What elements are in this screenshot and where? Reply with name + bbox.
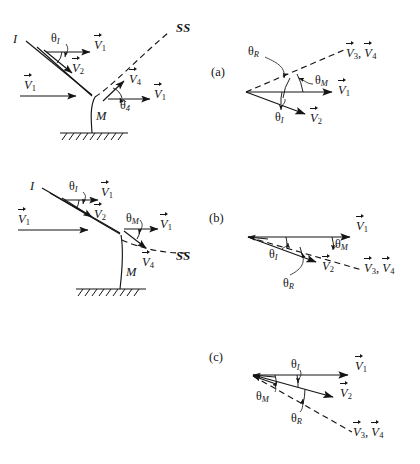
v1-right-label-a: V1 (154, 88, 166, 102)
jet-label-b: I (30, 180, 34, 193)
b-theta-i-leader (83, 192, 85, 204)
v2-label-c-vec: V2 (340, 387, 352, 401)
theta-m-label-b-sketch: θM (126, 212, 139, 226)
theta-r-label-a-vec: θR (248, 45, 259, 59)
a-v3v4-dashed (246, 50, 344, 92)
c-theta-r-arc (303, 389, 305, 404)
b-surface-curve (120, 235, 123, 289)
a-theta-r-leader (265, 57, 284, 78)
b-theta-m-arc (137, 229, 140, 239)
a-theta-r-arc (283, 78, 290, 98)
panel-tag-c: (c) (209, 351, 223, 364)
b-ground-hatching (78, 289, 139, 296)
v3-v4-label-b-vec: V3, V4 (364, 262, 394, 276)
jet-label-a: I (13, 33, 17, 46)
a-theta-i-arc (281, 92, 282, 104)
theta-m-label-c-vec: θM (256, 390, 269, 404)
v2-label-b-vec: V2 (322, 260, 334, 274)
v1-label-a-vec: V1 (338, 84, 350, 98)
ground-hatching (62, 133, 123, 140)
v1-freestream-label-a: V1 (24, 79, 36, 93)
b-theta-m-arc (332, 237, 334, 249)
b-v2-vector (248, 237, 316, 262)
v3-v4-label-c-vec: V3, V4 (353, 426, 383, 440)
theta-i-label-a-vec: θI (275, 111, 284, 125)
c-theta-i-arc (297, 375, 298, 387)
v2-label-a-vec: V2 (310, 112, 322, 126)
a-theta-m-arc (297, 74, 303, 92)
surface-curve-lower (91, 97, 95, 133)
v4-label-a: V4 (129, 73, 141, 87)
theta-4-label-a-sketch: θ4 (120, 99, 130, 113)
v1-top-label-b: V1 (101, 186, 113, 200)
theta-r-label-b-vec: θR (283, 277, 294, 291)
theta-i-label-b-sketch: θI (69, 180, 78, 194)
streamline-label-a: SS (176, 22, 191, 35)
panel-a-vector-diagram (246, 50, 344, 114)
panel-tag-a: (a) (211, 66, 225, 79)
surface-label-a: M (96, 110, 106, 123)
v1-label-c-vec: V1 (355, 360, 367, 374)
c-theta-r-leader (300, 399, 303, 412)
v2-top-label-b: V2 (94, 208, 106, 222)
v1-label-b-vec: V1 (356, 220, 368, 234)
panel-tag-b: (b) (209, 212, 224, 225)
streamline-label-b: SS (176, 250, 191, 263)
v1-freestream-label-b: V1 (18, 213, 30, 227)
theta-i-label-c-vec: θI (291, 358, 300, 372)
v3-v4-label-a-vec: V3, V4 (346, 47, 376, 61)
theta-m-label-b-vec: θM (335, 238, 348, 252)
theta-r-label-c-vec: θR (291, 412, 302, 426)
theta-i-label-a-sketch: θI (51, 32, 60, 46)
theta-i-leader (65, 44, 68, 57)
panel-b-sketch (18, 188, 190, 296)
figure-canvas: (a) I M SS θI θ4 V1 V2 V1 V4 V1 θR θM θI… (0, 0, 420, 464)
b-theta-r-arc (300, 247, 302, 255)
v1-top-label-a: V1 (94, 39, 106, 53)
theta-m-label-a-vec: θM (315, 74, 328, 88)
theta-i-label-b-vec: θI (269, 248, 278, 262)
a-theta-i-leader (281, 99, 285, 110)
v4-label-b: V4 (142, 256, 154, 270)
b-theta-m-leader (139, 220, 142, 234)
v1-right-label-b: V1 (160, 218, 172, 232)
v2-top-label-a: V2 (72, 62, 84, 76)
surface-label-b: M (126, 266, 136, 279)
